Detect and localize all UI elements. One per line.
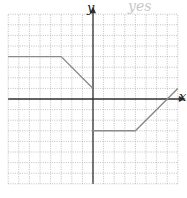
x-axis-label: x (179, 89, 186, 104)
handwritten-note: yes (128, 0, 151, 14)
coordinate-plane (0, 0, 187, 198)
y-axis-label: y (87, 0, 94, 15)
